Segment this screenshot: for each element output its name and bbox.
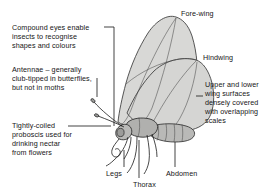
label-abdomen: Abdomen: [166, 169, 197, 178]
label-compound-eyes: Compound eyes enable insects to recognis…: [12, 23, 108, 50]
compound-eye: [117, 128, 124, 136]
middle-leg: [127, 137, 137, 173]
proboscis-coil: [112, 139, 121, 157]
label-thorax: Thorax: [133, 180, 156, 189]
proboscis-group: [112, 139, 121, 157]
label-wing-scales: Upper and lower wing surfaces densely co…: [205, 80, 275, 125]
label-fore-wing: Fore-wing: [181, 9, 214, 18]
label-hindwing: Hindwing: [203, 53, 233, 62]
label-legs: Legs: [106, 169, 122, 178]
antenna-club-lower: [94, 113, 99, 117]
label-proboscis: Tightly-coiled proboscis used for drinki…: [12, 121, 104, 157]
antenna-club-upper: [90, 98, 96, 103]
hind-leg: [144, 135, 149, 174]
label-antennae: Antennae – generally club-tipped in butt…: [12, 65, 108, 92]
butterfly-anatomy-diagram: .ln { fill:none; stroke:#1a1a1a; stroke-…: [0, 0, 275, 195]
wings-group: [118, 16, 214, 131]
legs-group: [106, 134, 157, 174]
